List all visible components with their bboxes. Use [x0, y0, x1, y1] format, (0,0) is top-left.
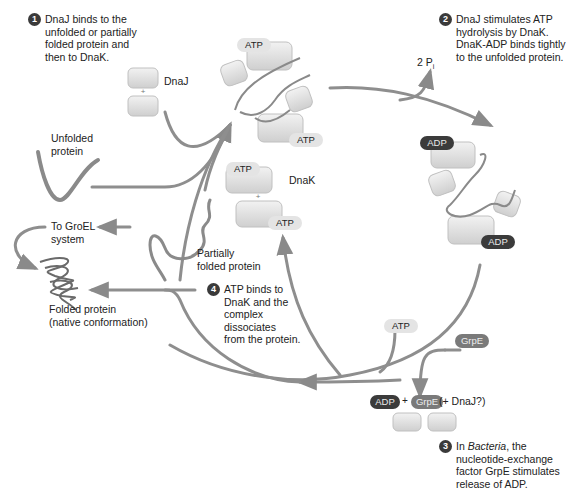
label-line: Partially [197, 247, 261, 260]
phosphate-subscript: i [433, 63, 435, 70]
to-groel-label: To GroEL system [51, 220, 95, 245]
adp-pill: ADP [370, 395, 400, 409]
atp-pill: ATP [384, 319, 418, 333]
step-2-line: to the unfolded protein. [456, 51, 566, 64]
label-line: protein [51, 145, 93, 158]
step-2-badge: 2 [439, 13, 452, 26]
step-2-line: hydrolysis by DnaK. [456, 26, 566, 39]
step-3-annotation: 3 In Bacteria, the nucleotide-exchange f… [439, 440, 560, 490]
step-4-line: complex [224, 308, 300, 321]
atp-pill: ATP [226, 162, 260, 176]
step-3-badge: 3 [439, 440, 452, 453]
adp-pill: ADP [420, 136, 454, 150]
step-2-annotation: 2 DnaJ stimulates ATP hydrolysis by DnaK… [439, 13, 566, 63]
dnak-label: DnaK [289, 174, 315, 186]
label-line: Unfolded [51, 132, 93, 145]
phosphate-text: 2 P [417, 56, 433, 68]
svg-text:+: + [141, 87, 146, 96]
step-1-annotation: 1 DnaJ binds to the unfolded or partiall… [28, 13, 137, 63]
label-line: Folded protein [49, 303, 148, 316]
step-3-line: release of ADP. [456, 478, 560, 491]
dnaj-label: DnaJ [164, 75, 189, 87]
dnaj-optional: (+ DnaJ?) [439, 395, 485, 407]
folded-protein-label: Folded protein (native conformation) [49, 303, 148, 328]
step-3-line: factor GrpE stimulates [456, 465, 560, 478]
step-4-line: ATP binds to [224, 283, 300, 296]
chaperone-cycle-diagram: + + 1 DnaJ binds to the unfolde [0, 0, 578, 496]
atp-pill: ATP [237, 38, 271, 52]
svg-text:+: + [256, 192, 261, 201]
step-1-line: unfolded or partially [45, 26, 137, 39]
step-1-line: then to DnaK. [45, 51, 137, 64]
step-4-annotation: 4 ATP binds to DnaK and the complex diss… [207, 283, 300, 346]
step-4-line: from the protein. [224, 333, 300, 346]
grpe-pill: GrpE [455, 334, 489, 348]
unfolded-protein-strand [38, 152, 98, 200]
step-1-line: DnaJ binds to the [45, 13, 137, 26]
plus-sign: + [402, 395, 408, 406]
step-2-line: DnaJ stimulates ATP [456, 13, 566, 26]
label-line: To GroEL [51, 220, 95, 233]
step-3-line: nucleotide-exchange [456, 453, 560, 466]
dnak-dnaj-complex-atp [219, 42, 314, 142]
phosphate-label: 2 Pi [417, 56, 434, 70]
adp-pill: ADP [481, 235, 515, 249]
partially-folded-label: Partially folded protein [197, 247, 261, 272]
step-4-badge: 4 [207, 283, 220, 296]
atp-pill: ATP [268, 216, 302, 230]
label-line: system [51, 233, 95, 246]
label-line: (native conformation) [49, 316, 148, 329]
unfolded-protein-label: Unfolded protein [51, 132, 93, 157]
step-1-line: folded protein and [45, 38, 137, 51]
atp-pill: ATP [289, 133, 323, 147]
dnak-adp-complex [427, 142, 522, 244]
step-4-line: DnaK and the [224, 296, 300, 309]
step-1-badge: 1 [28, 13, 41, 26]
step-3-line: In Bacteria, the [456, 440, 560, 453]
step-4-line: dissociates [224, 321, 300, 334]
label-line: folded protein [197, 260, 261, 273]
step-2-line: DnaK-ADP binds tightly [456, 38, 566, 51]
